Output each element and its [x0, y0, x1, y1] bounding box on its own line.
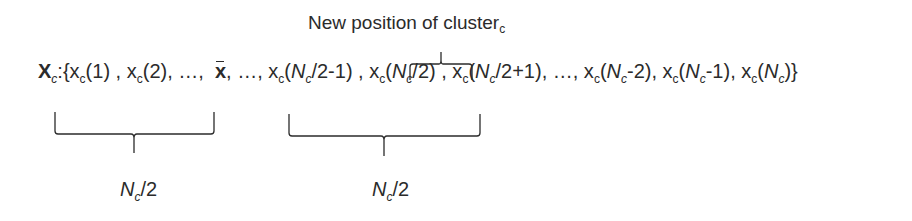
bottom-left-brace: [55, 112, 214, 153]
cluster-set-equation: Xc:{xc(1) , xc(2), …, x, …, xc(Nc/2-1) ,…: [38, 60, 798, 86]
set-symbol: X: [38, 60, 51, 82]
bottom-right-brace: [289, 114, 480, 156]
mean-x-bar: x: [215, 60, 226, 83]
bottom-right-label: Nc/2: [372, 178, 409, 204]
bottom-left-label: Nc/2: [120, 178, 157, 204]
